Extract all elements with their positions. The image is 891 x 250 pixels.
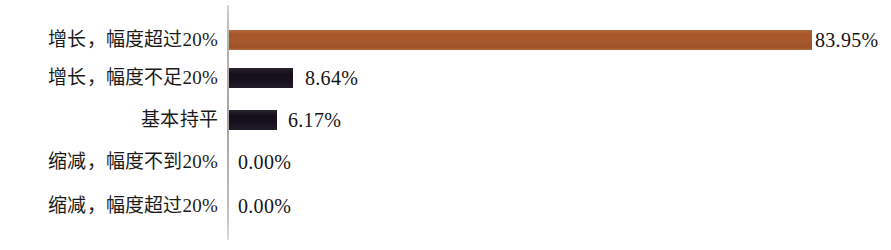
chart-row: 缩减，幅度超过20% 0.00% [0,186,891,226]
bar-value-label: 0.00% [238,142,291,182]
bar-series-value [229,30,812,50]
category-label: 增长，幅度超过20% [48,20,218,60]
chart-row: 增长，幅度不足20% 8.64% [0,58,891,98]
category-label: 增长，幅度不足20% [48,58,218,98]
chart-row: 基本持平 6.17% [0,100,891,140]
horizontal-bar-chart: 增长，幅度超过20% 83.95% 增长，幅度不足20% 8.64% 基本持平 … [0,0,891,250]
chart-row: 增长，幅度超过20% 83.95% [0,20,891,60]
chart-row: 缩减，幅度不到20% 0.00% [0,142,891,182]
bar-series-value [229,110,277,130]
category-label: 缩减，幅度超过20% [48,186,218,226]
bar-value-label: 6.17% [288,100,341,140]
category-label: 基本持平 [141,100,218,140]
bar-value-label: 0.00% [238,186,291,226]
bar-value-label: 83.95% [815,20,878,60]
category-label: 缩减，幅度不到20% [48,142,218,182]
bar-series-value [229,68,293,88]
bar-value-label: 8.64% [305,58,358,98]
